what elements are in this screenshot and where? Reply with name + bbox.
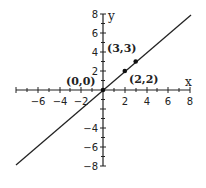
y-axis-label: y <box>107 9 115 23</box>
x-tick-label: 2 <box>122 96 128 107</box>
graph-canvas: −6 −4 −2 2 4 6 8 8 6 4 2 −4 −6 −8 y x (0… <box>0 0 206 188</box>
y-tick-label: 6 <box>92 28 98 39</box>
point-3-3-label: (3,3) <box>107 42 137 55</box>
point-3-3 <box>133 59 138 64</box>
x-tick-label: 8 <box>187 96 193 107</box>
point-origin <box>101 88 106 93</box>
y-tick-label: 4 <box>92 47 98 58</box>
origin-label: (0,0) <box>66 75 96 88</box>
x-tick-label: −6 <box>31 96 46 107</box>
point-2-2 <box>123 69 128 74</box>
x-axis-label: x <box>185 75 192 89</box>
y-tick-label: −8 <box>83 161 98 172</box>
point-2-2-label: (2,2) <box>129 73 159 86</box>
y-tick-label: −6 <box>83 142 98 153</box>
x-tick-label: −4 <box>53 96 68 107</box>
x-tick-label: 6 <box>165 96 171 107</box>
y-tick-label: −4 <box>83 123 98 134</box>
y-tick-label: 8 <box>92 9 98 20</box>
x-tick-label: 4 <box>144 96 150 107</box>
